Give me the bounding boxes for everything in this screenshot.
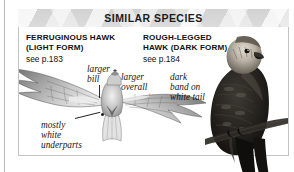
panel-header: SIMILAR SPECIES: [18, 9, 289, 27]
callout-larger-overall: larger overall: [121, 72, 147, 92]
species-ref-rough-legged[interactable]: see p.184: [143, 54, 180, 64]
panel-title: SIMILAR SPECIES: [18, 9, 289, 27]
page-margin-rule: [4, 0, 5, 172]
species-ref-ferruginous[interactable]: see p.183: [26, 54, 63, 64]
panel-body: FERRUGINOUS HAWK (LIGHT FORM) see p.183 …: [18, 27, 289, 156]
species-name-rough-legged: ROUGH-LEGGED HAWK (DARK FORM): [143, 33, 227, 53]
callout-white-underparts: mostly white underparts: [41, 120, 82, 151]
leader-line-larger-bill: [99, 85, 100, 98]
panel-clip: FERRUGINOUS HAWK (LIGHT FORM) see p.183 …: [19, 27, 288, 155]
callout-dark-band-tail: dark band on white tail: [170, 72, 205, 103]
species-name-ferruginous: FERRUGINOUS HAWK (LIGHT FORM): [26, 33, 115, 53]
leader-dot-white-underparts: [101, 113, 104, 116]
similar-species-panel: SIMILAR SPECIES: [18, 9, 289, 156]
field-guide-page: SIMILAR SPECIES: [0, 0, 294, 172]
callout-larger-bill: larger bill: [87, 64, 110, 84]
